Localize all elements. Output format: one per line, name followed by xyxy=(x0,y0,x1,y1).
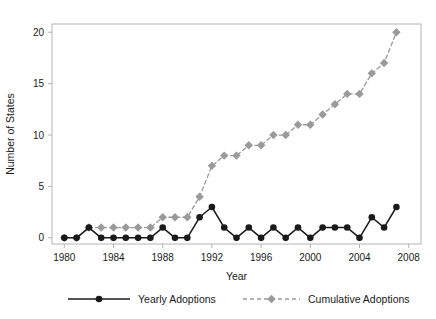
data-point-marker xyxy=(172,235,179,242)
x-tick-label: 1984 xyxy=(102,252,125,263)
data-point-marker xyxy=(221,224,228,231)
data-point-marker xyxy=(344,224,351,231)
data-point-marker xyxy=(73,235,80,242)
x-tick-label: 2004 xyxy=(348,252,371,263)
x-tick-label: 1992 xyxy=(201,252,224,263)
data-point-marker xyxy=(393,204,400,211)
series-line-0 xyxy=(64,207,396,238)
data-point-marker xyxy=(258,235,265,242)
data-point-marker xyxy=(270,224,277,231)
y-axis-title: Number of States xyxy=(4,93,16,175)
data-point-marker xyxy=(381,224,388,231)
data-point-marker xyxy=(98,235,105,242)
plot-frame xyxy=(52,24,421,244)
data-point-marker xyxy=(110,235,117,242)
data-point-marker xyxy=(233,235,240,242)
data-point-marker xyxy=(307,235,314,242)
x-tick-label: 2000 xyxy=(299,252,322,263)
x-tick-label: 1996 xyxy=(250,252,273,263)
data-point-marker xyxy=(97,223,105,231)
legend-marker-yearly xyxy=(96,296,103,303)
adoptions-line-chart: 0510152019801984198819921996200020042008… xyxy=(0,0,436,319)
y-tick-label: 15 xyxy=(33,78,45,89)
data-point-marker xyxy=(171,213,179,221)
legend-marker-cumulative xyxy=(267,295,275,303)
y-tick-label: 5 xyxy=(38,181,44,192)
chart-legend: Yearly AdoptionsCumulative Adoptions xyxy=(68,293,410,305)
data-point-marker xyxy=(135,235,142,242)
data-point-marker xyxy=(61,235,68,242)
legend-label-yearly: Yearly Adoptions xyxy=(138,293,216,305)
data-point-marker xyxy=(109,223,117,231)
legend-label-cumulative: Cumulative Adoptions xyxy=(308,293,410,305)
data-point-marker xyxy=(356,235,363,242)
series-markers-0 xyxy=(61,204,400,241)
y-tick-label: 0 xyxy=(38,232,44,243)
data-point-marker xyxy=(392,28,400,36)
y-tick-label: 10 xyxy=(33,130,45,141)
series-markers-1 xyxy=(60,28,401,242)
data-point-marker xyxy=(369,214,376,221)
data-point-marker xyxy=(332,224,339,231)
data-point-marker xyxy=(209,204,216,211)
data-point-marker xyxy=(319,224,326,231)
data-point-marker xyxy=(134,223,142,231)
x-tick-label: 1980 xyxy=(53,252,76,263)
data-point-marker xyxy=(196,214,203,221)
data-point-marker xyxy=(183,213,191,221)
chart-figure: 0510152019801984198819921996200020042008… xyxy=(0,0,436,319)
data-point-marker xyxy=(355,90,363,98)
data-point-marker xyxy=(195,193,203,201)
data-point-marker xyxy=(295,224,302,231)
data-point-marker xyxy=(380,59,388,67)
data-point-marker xyxy=(86,224,93,231)
data-point-marker xyxy=(282,235,289,242)
x-tick-label: 1988 xyxy=(152,252,175,263)
y-tick-label: 20 xyxy=(33,27,45,38)
x-tick-label: 2008 xyxy=(398,252,421,263)
series-line-1 xyxy=(64,32,396,238)
data-point-marker xyxy=(147,235,154,242)
data-point-marker xyxy=(123,235,130,242)
x-axis-title: Year xyxy=(226,270,248,282)
data-point-marker xyxy=(318,110,326,118)
data-point-marker xyxy=(246,224,253,231)
data-point-marker xyxy=(184,235,191,242)
data-point-marker xyxy=(159,224,166,231)
data-point-marker xyxy=(122,223,130,231)
